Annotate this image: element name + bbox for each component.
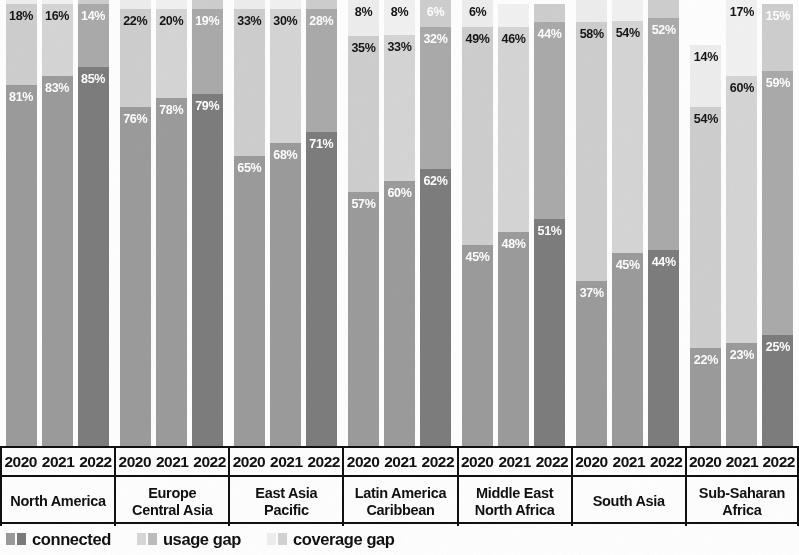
year-label-2022[interactable]: 2022 <box>305 453 342 471</box>
year-label-2022[interactable]: 2022 <box>77 453 114 471</box>
year-label-2021[interactable]: 2021 <box>39 453 76 471</box>
year-label-2021[interactable]: 2021 <box>610 453 647 471</box>
bar-2021[interactable]: 2%30%68% <box>270 0 301 446</box>
year-label-2020[interactable]: 2020 <box>344 453 381 471</box>
segment-coverage: 8% <box>348 0 379 36</box>
year-label-2022[interactable]: 2022 <box>533 453 570 471</box>
bar-2021[interactable]: 8%33%60% <box>384 0 415 446</box>
legend-item-coverage-gap[interactable]: coverage gap <box>267 531 395 548</box>
legend-swatch-light <box>6 533 15 545</box>
segment-connected: 37% <box>576 281 607 446</box>
segment-usage: 18% <box>6 4 37 84</box>
value-label: 44% <box>652 256 676 269</box>
value-label: 71% <box>309 138 333 151</box>
year-label-2022[interactable]: 2022 <box>647 453 684 471</box>
bar-2021[interactable]: 5%46%48% <box>498 0 529 446</box>
bar-2021[interactable]: 2%20%78% <box>156 0 187 446</box>
segment-usage: 35% <box>348 36 379 192</box>
value-label: 78% <box>159 104 183 117</box>
region-label-line: Middle East <box>476 485 553 502</box>
legend-swatch <box>267 533 287 545</box>
value-label: 16% <box>45 10 69 23</box>
value-label: 81% <box>9 91 33 104</box>
value-label: 32% <box>423 33 447 46</box>
segment-coverage: 2% <box>192 0 223 9</box>
segment-usage: 58% <box>576 22 607 281</box>
bar-2020[interactable]: 6%49%45% <box>462 0 493 446</box>
plot-area: 1%18%81%1%16%83%1%14%85%2%22%76%2%20%78%… <box>0 0 799 446</box>
region-label: East AsiaPacific <box>230 477 342 526</box>
segment-coverage: 2% <box>270 0 301 9</box>
axis-group-1: 202020212022EuropeCentral Asia <box>114 448 228 526</box>
bar-2022[interactable]: 2%28%71% <box>306 0 337 446</box>
year-label-2021[interactable]: 2021 <box>496 453 533 471</box>
region-label-line: Central Asia <box>132 502 212 519</box>
bar-2020[interactable]: 2%33%65% <box>234 0 265 446</box>
legend-label: coverage gap <box>293 531 395 548</box>
bar-2022[interactable]: 15%59%25% <box>762 0 793 446</box>
value-label: 17% <box>730 6 754 19</box>
bar-2020[interactable]: 8%35%57% <box>348 0 379 446</box>
year-label-2020[interactable]: 2020 <box>2 453 39 471</box>
bar-2020[interactable]: 1%18%81% <box>6 0 37 446</box>
segment-usage: 52% <box>648 18 679 250</box>
year-label-2020[interactable]: 2020 <box>230 453 267 471</box>
value-label: 33% <box>237 15 261 28</box>
segment-coverage: 14% <box>690 45 721 107</box>
year-label-2021[interactable]: 2021 <box>154 453 191 471</box>
segment-connected: 45% <box>462 245 493 446</box>
bar-group-europe-central-asia: 2%22%76%2%20%78%2%19%79% <box>114 0 228 446</box>
segment-connected: 25% <box>762 335 793 447</box>
year-label-2020[interactable]: 2020 <box>116 453 153 471</box>
year-label-2021[interactable]: 2021 <box>268 453 305 471</box>
segment-connected: 71% <box>306 132 337 446</box>
value-label: 52% <box>652 24 676 37</box>
segment-usage: 20% <box>156 9 187 98</box>
value-label: 79% <box>195 100 219 113</box>
segment-connected: 68% <box>270 143 301 446</box>
year-label-2022[interactable]: 2022 <box>760 453 797 471</box>
segment-usage: 49% <box>462 27 493 246</box>
segment-usage: 44% <box>534 22 565 218</box>
segment-coverage: 4% <box>534 4 565 22</box>
year-label-2020[interactable]: 2020 <box>459 453 496 471</box>
value-label: 30% <box>273 15 297 28</box>
segment-coverage: 8% <box>384 0 415 35</box>
bar-2021[interactable]: 1%16%83% <box>42 0 73 446</box>
bar-2022[interactable]: 4%52%44% <box>648 0 679 446</box>
bar-2021[interactable]: 5%54%45% <box>612 0 643 446</box>
segment-connected: 62% <box>420 169 451 446</box>
value-label: 58% <box>580 28 604 41</box>
bar-2022[interactable]: 2%19%79% <box>192 0 223 446</box>
value-label: 23% <box>730 349 754 362</box>
bar-2020[interactable]: 14%54%22% <box>690 0 721 446</box>
legend-swatch-dark <box>148 533 157 545</box>
year-label-2022[interactable]: 2022 <box>191 453 228 471</box>
axis-group-4: 202020212022Middle EastNorth Africa <box>457 448 571 526</box>
value-label: 54% <box>694 113 718 126</box>
bar-2022[interactable]: 6%32%62% <box>420 0 451 446</box>
bar-2020[interactable]: 5%58%37% <box>576 0 607 446</box>
bar-group-south-asia: 5%58%37%5%54%45%4%52%44% <box>571 0 685 446</box>
segment-usage: 60% <box>726 76 757 344</box>
year-label-2022[interactable]: 2022 <box>419 453 456 471</box>
bar-2022[interactable]: 1%14%85% <box>78 0 109 446</box>
legend-item-usage-gap[interactable]: usage gap <box>137 531 241 548</box>
region-label-line: Latin America <box>355 485 446 502</box>
year-label-2020[interactable]: 2020 <box>687 453 724 471</box>
segment-coverage: 4% <box>648 0 679 18</box>
year-label-2020[interactable]: 2020 <box>573 453 610 471</box>
bar-2022[interactable]: 4%44%51% <box>534 0 565 446</box>
year-label-2021[interactable]: 2021 <box>382 453 419 471</box>
region-label-line: North America <box>10 493 105 510</box>
legend-item-connected[interactable]: connected <box>6 531 111 548</box>
value-label: 54% <box>616 27 640 40</box>
segment-usage: 28% <box>306 9 337 133</box>
segment-connected: 57% <box>348 192 379 446</box>
value-label: 60% <box>730 82 754 95</box>
bar-2020[interactable]: 2%22%76% <box>120 0 151 446</box>
region-label-line: Africa <box>722 502 761 519</box>
bar-2021[interactable]: 17%60%23% <box>726 0 757 446</box>
year-label-2021[interactable]: 2021 <box>724 453 761 471</box>
segment-usage: 54% <box>612 21 643 253</box>
